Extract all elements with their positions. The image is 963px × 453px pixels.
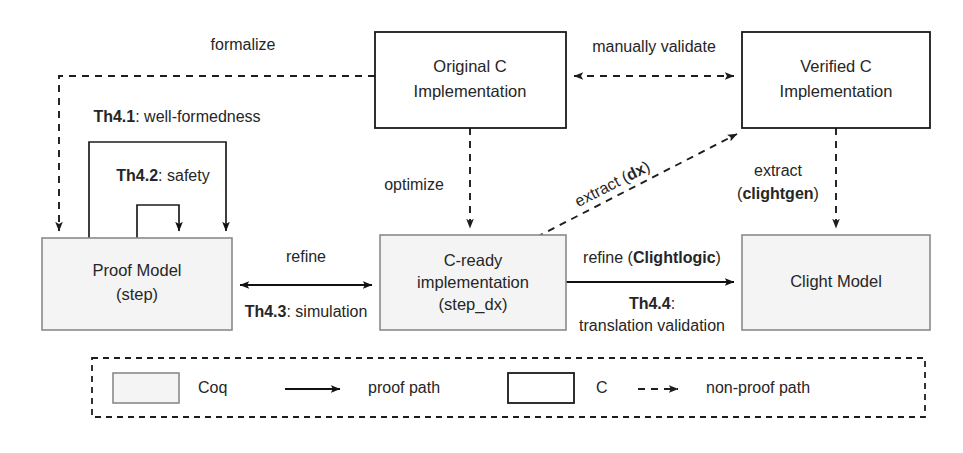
legend-label-c: C: [596, 379, 608, 396]
edge-extract-clightgen-label-line1: extract: [754, 162, 803, 179]
edge-th41-label-rest: : well-formedness: [135, 108, 260, 125]
edge-manually-validate: manually validate: [574, 38, 734, 76]
node-c-ready-line3: (step_dx): [439, 295, 508, 314]
edge-refine-clightlogic-bold: Clightlogic: [633, 249, 716, 266]
node-original-c-line1: Original C: [433, 57, 506, 75]
edge-refine-clightlogic: refine (Clightlogic) Th4.4: translation …: [566, 249, 734, 334]
edge-th41-label: Th4.1: well-formedness: [93, 108, 260, 125]
edge-extract-dx-label: extract (dx): [572, 158, 653, 210]
edge-refine-clightlogic-close: ): [716, 249, 721, 266]
node-c-ready-line1: C-ready: [444, 251, 503, 269]
edge-refine-simulation: refine Th4.3: simulation: [240, 248, 372, 320]
edge-refine-clightlogic-label-top: refine (Clightlogic): [583, 249, 721, 266]
node-clight-model-line1: Clight Model: [790, 272, 882, 290]
legend-swatch-coq: [113, 373, 179, 403]
edge-manually-validate-label: manually validate: [592, 38, 716, 55]
node-c-ready-line2: implementation: [417, 273, 529, 291]
workflow-diagram: formalize manually validate optimize ext…: [0, 0, 963, 453]
legend-swatch-c: [508, 373, 574, 403]
edge-th41-label-bold: Th4.1: [93, 108, 135, 125]
edge-refine-clightlogic-plain: refine (: [583, 249, 633, 266]
node-clight-model[interactable]: Clight Model: [742, 235, 930, 330]
node-proof-model-line2: (step): [116, 285, 158, 303]
node-proof-model-line1: Proof Model: [93, 261, 182, 279]
edge-th44-label-rest: :: [671, 295, 675, 312]
edge-optimize: optimize: [384, 128, 470, 228]
node-c-ready[interactable]: C-ready implementation (step_dx): [380, 235, 566, 330]
edge-refine-simulation-label-bottom: Th4.3: simulation: [245, 303, 368, 320]
legend-label-non-proof-path: non-proof path: [706, 379, 810, 396]
diagram-canvas: formalize manually validate optimize ext…: [0, 0, 963, 453]
edge-extract-dx: extract (dx): [525, 134, 737, 243]
node-original-c[interactable]: Original C Implementation: [375, 32, 566, 128]
node-verified-c-box[interactable]: [742, 32, 930, 128]
legend-label-proof-path: proof path: [368, 379, 440, 396]
edge-th43-label-bold: Th4.3: [245, 303, 287, 320]
node-proof-model-box[interactable]: [42, 238, 232, 330]
edge-th43-label-rest: : simulation: [286, 303, 367, 320]
edge-th42-label: Th4.2: safety: [116, 167, 209, 184]
edge-extract-clightgen-label-bold: clightgen: [742, 185, 813, 202]
edge-extract-dx-label-plain: extract (: [572, 168, 632, 210]
edge-th42-label-rest: : safety: [158, 167, 210, 184]
edge-extract-clightgen: extract (clightgen): [737, 128, 836, 228]
edge-extract-clightgen-label-line2: (clightgen): [737, 185, 819, 202]
edge-optimize-label: optimize: [384, 176, 444, 193]
edge-th44-label-bottom: translation validation: [579, 317, 725, 334]
node-proof-model[interactable]: Proof Model (step): [42, 238, 232, 330]
edge-formalize: formalize: [59, 36, 375, 231]
edge-th44-label-bold: Th4.4: [629, 295, 671, 312]
node-verified-c-line2: Implementation: [780, 82, 893, 100]
legend-label-coq: Coq: [198, 379, 227, 396]
edge-th44-label-mid: Th4.4:: [629, 295, 675, 312]
edge-formalize-label: formalize: [211, 36, 276, 53]
edge-refine-simulation-label-top: refine: [286, 248, 326, 265]
node-verified-c[interactable]: Verified C Implementation: [742, 32, 930, 128]
edge-th42-self-loop: Th4.2: safety: [116, 167, 209, 238]
node-original-c-line2: Implementation: [414, 82, 527, 100]
legend: Coq proof path C non-proof path: [92, 358, 925, 417]
node-original-c-box[interactable]: [375, 32, 566, 128]
node-verified-c-line1: Verified C: [800, 57, 872, 75]
edge-th42-label-bold: Th4.2: [116, 167, 158, 184]
